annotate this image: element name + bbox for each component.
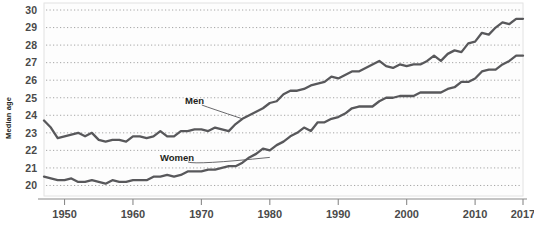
y-tick-label: 21	[25, 162, 37, 174]
y-tick-label: 25	[25, 92, 37, 104]
x-tick-label: 1990	[326, 208, 350, 220]
x-tick-label: 2000	[394, 208, 418, 220]
y-tick-label: 20	[25, 179, 37, 191]
y-tick-label: 29	[25, 21, 37, 33]
y-tick-label: 30	[25, 4, 37, 16]
y-tick-label: 24	[25, 109, 37, 121]
x-tick-label: 1960	[121, 208, 145, 220]
y-tick-label: 22	[25, 144, 37, 156]
x-tick-label: 1970	[189, 208, 213, 220]
y-tick-label: 23	[25, 127, 37, 139]
y-axis-tick-labels: 2021222324252627282930	[25, 4, 37, 191]
x-axis-ticks	[65, 199, 523, 205]
y-tick-label: 28	[25, 39, 37, 51]
y-tick-label: 26	[25, 74, 37, 86]
y-tick-label: 27	[25, 56, 37, 68]
median-age-line-chart: 2021222324252627282930 19501960197019801…	[0, 0, 534, 231]
x-tick-label: 2017	[511, 208, 534, 220]
annotation-label-women: Women	[160, 152, 194, 163]
annotation-label-men: Men	[185, 95, 204, 106]
x-axis-tick-labels: 19501960197019801990200020102017	[52, 208, 534, 220]
plot-area-background	[44, 3, 523, 196]
chart-container: 2021222324252627282930 19501960197019801…	[0, 0, 534, 231]
x-tick-label: 2010	[463, 208, 487, 220]
y-axis-label: Median age	[4, 97, 13, 139]
x-tick-label: 1980	[258, 208, 282, 220]
x-tick-label: 1950	[52, 208, 76, 220]
